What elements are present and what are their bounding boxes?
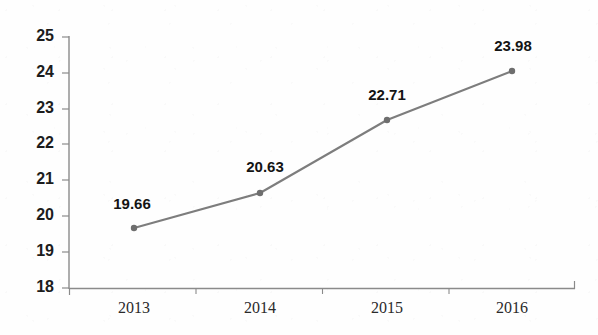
- x-axis-label-2016: 2016: [496, 299, 528, 316]
- data-label-2015: 22.71: [368, 86, 406, 103]
- y-axis-label-25: 25: [36, 27, 54, 44]
- y-axis-label-22: 22: [36, 134, 54, 151]
- data-label-2013: 19.66: [113, 195, 151, 212]
- data-point-2015: [384, 117, 390, 123]
- chart-canvas: 25 24 23 22 21 20 19 18 2013 2014 2015: [0, 0, 598, 335]
- data-point-2014: [257, 190, 263, 196]
- line-chart: 25 24 23 22 21 20 19 18 2013 2014 2015: [0, 0, 598, 335]
- y-axis-label-24: 24: [36, 63, 54, 80]
- x-axis-label-2013: 2013: [118, 299, 150, 316]
- x-axis-label-2014: 2014: [244, 299, 276, 316]
- data-label-2016: 23.98: [494, 37, 532, 54]
- x-axis-label-2015: 2015: [371, 299, 403, 316]
- y-axis-label-18: 18: [36, 278, 54, 295]
- data-point-2013: [131, 225, 137, 231]
- y-axis-label-20: 20: [36, 206, 54, 223]
- data-label-2014: 20.63: [246, 158, 284, 175]
- y-axis-label-21: 21: [36, 170, 54, 187]
- y-axis-label-23: 23: [36, 99, 54, 116]
- y-axis-label-19: 19: [36, 242, 54, 259]
- data-point-2016: [509, 68, 515, 74]
